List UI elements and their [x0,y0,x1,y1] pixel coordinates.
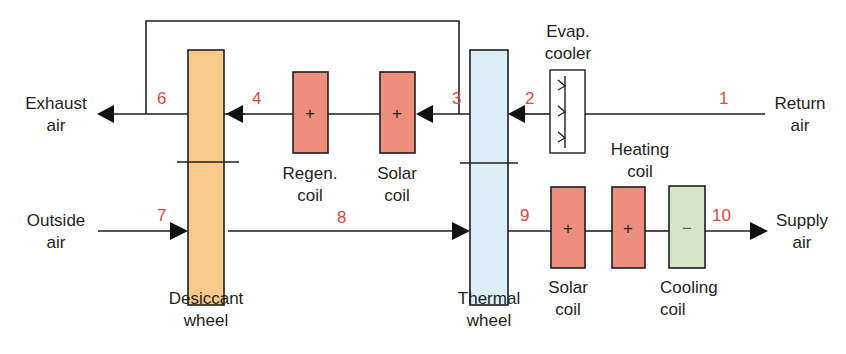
return-air-line1: Return [762,93,838,115]
exhaust-air-line1: Exhaust [18,93,94,115]
outside-air-line2: air [18,232,94,254]
exhaust-air-line2: air [18,115,94,137]
return-air-label: Return air [762,93,838,137]
state-point-6: 6 [157,89,166,109]
state-point-8: 8 [337,208,346,228]
state-point-4: 4 [252,89,261,109]
heating-coil-line2: coil [590,161,690,183]
arrow-to-desiccant-lower-icon [170,222,188,240]
regen-coil-line2: coil [270,185,350,207]
cooling-coil-line2: coil [660,299,750,321]
cooling-coil-minus-icon: − [677,220,697,238]
heating-coil-label: Heating coil [590,139,690,183]
outside-air-line1: Outside [18,210,94,232]
state-point-10: 10 [712,206,731,226]
state-point-2: 2 [525,89,534,109]
solar-coil-upper-label: Solar coil [357,163,437,207]
regen-coil-plus-icon: + [300,105,320,123]
return-air-line2: air [762,115,838,137]
solar-coil-lower-line1: Solar [528,277,608,299]
state-point-9: 9 [520,206,529,226]
arrow-to-desiccant-icon [226,105,243,123]
state-point-7: 7 [157,206,166,226]
state-point-3: 3 [452,89,461,109]
solar-coil-lower-plus-icon: + [558,220,578,238]
exhaust-air-label: Exhaust air [18,93,94,137]
arrow-supply-icon [750,222,768,240]
heating-coil-plus-icon: + [618,220,638,238]
arrow-to-solar-coil-icon [416,105,433,123]
thermal-wheel-line2: wheel [439,310,539,332]
arrow-exhaust-icon [97,105,114,123]
solar-coil-upper-line1: Solar [357,163,437,185]
evap-cooler-line1: Evap. [528,21,608,43]
desiccant-wheel [188,50,224,305]
outside-air-label: Outside air [18,210,94,254]
desiccant-wheel-line1: Desiccant [156,288,256,310]
solar-coil-upper-line2: coil [357,185,437,207]
evap-cooler-label: Evap. cooler [528,21,608,65]
desiccant-wheel-label: Desiccant wheel [156,288,256,332]
desiccant-wheel-line2: wheel [156,310,256,332]
thermal-wheel-label: Thermal wheel [439,288,539,332]
state-point-1: 1 [719,89,728,109]
evap-cooler [550,70,585,153]
solar-coil-upper-plus-icon: + [387,105,407,123]
solar-coil-lower-line2: coil [528,299,608,321]
heating-coil-line1: Heating [590,139,690,161]
thermal-wheel [470,50,508,305]
thermal-wheel-line1: Thermal [439,288,539,310]
supply-air-label: Supply air [768,210,836,254]
evap-cooler-line2: cooler [528,43,608,65]
arrow-to-thermal-wheel-icon [508,105,525,123]
arrow-to-thermal-lower-icon [452,222,470,240]
regen-coil-label: Regen. coil [270,163,350,207]
cooling-coil-label: Cooling coil [660,277,750,321]
cooling-coil-line1: Cooling [660,277,750,299]
supply-air-line2: air [768,232,836,254]
regen-coil-line1: Regen. [270,163,350,185]
supply-air-line1: Supply [768,210,836,232]
desiccant-cooling-diagram: + + + + − Exhaust air Outside air Return… [0,0,846,354]
solar-coil-lower-label: Solar coil [528,277,608,321]
